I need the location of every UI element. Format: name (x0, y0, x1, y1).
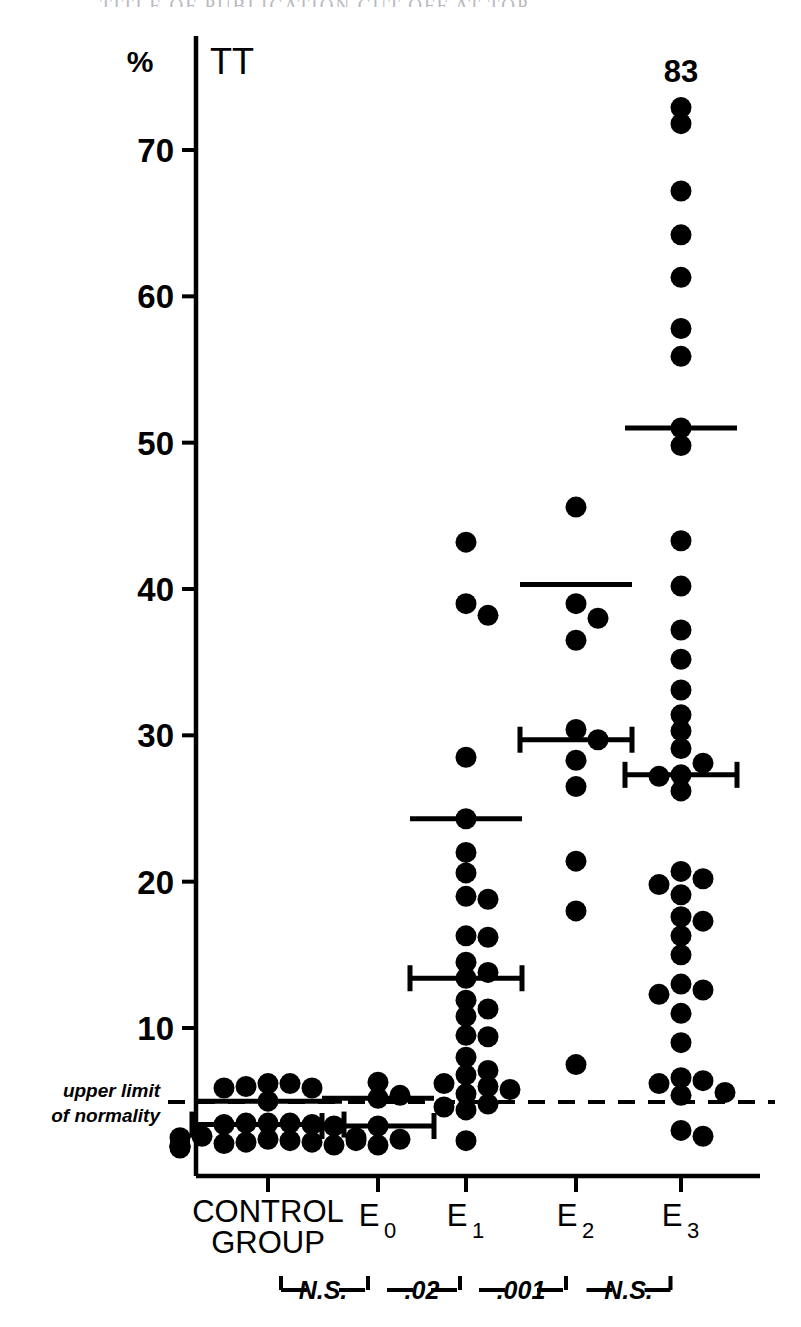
data-point (693, 868, 714, 889)
y-tick-label: 40 (137, 571, 174, 608)
data-point (500, 1079, 521, 1100)
data-point (456, 808, 477, 829)
data-point (671, 224, 692, 245)
data-point (671, 530, 692, 551)
x-label-e0: E (359, 1198, 380, 1233)
data-point (478, 889, 499, 910)
data-point (456, 925, 477, 946)
data-point (390, 1129, 411, 1150)
data-point (456, 532, 477, 553)
data-point (258, 1129, 279, 1150)
data-point (693, 753, 714, 774)
data-point (693, 979, 714, 1000)
data-point (671, 925, 692, 946)
data-point (671, 346, 692, 367)
group-e3 (625, 97, 737, 1147)
data-point (671, 906, 692, 927)
data-point (214, 1114, 235, 1135)
data-point (236, 1076, 257, 1097)
data-point (671, 113, 692, 134)
data-point (671, 1120, 692, 1141)
data-point (456, 1006, 477, 1027)
x-label-e1: E (447, 1198, 468, 1233)
group-e2 (520, 497, 632, 1076)
data-point (456, 1099, 477, 1120)
data-point (192, 1126, 213, 1147)
data-point (302, 1132, 323, 1153)
upper-limit-label-line2: of normality (51, 1105, 161, 1126)
category-labels-group: CONTROLGROUPE0E1E2E3 (192, 1194, 699, 1260)
data-point (671, 576, 692, 597)
data-point (671, 180, 692, 201)
x-label-subscript-e0: 0 (384, 1218, 396, 1243)
data-point (368, 1088, 389, 1109)
percent-symbol-label: % (127, 45, 154, 78)
data-point (434, 1097, 455, 1118)
data-point (478, 998, 499, 1019)
data-point (649, 1073, 670, 1094)
data-point (671, 318, 692, 339)
group-control (170, 1073, 367, 1158)
data-point (478, 1094, 499, 1115)
data-point (280, 1073, 301, 1094)
data-point (478, 1026, 499, 1047)
data-point (671, 649, 692, 670)
x-label-subscript-e1: 1 (472, 1218, 484, 1243)
data-point (566, 776, 587, 797)
data-point (693, 1126, 714, 1147)
data-point (566, 719, 587, 740)
data-point (566, 851, 587, 872)
data-point (566, 497, 587, 518)
data-point (478, 962, 499, 983)
data-point (671, 1032, 692, 1053)
data-point (456, 862, 477, 883)
data-point (456, 1064, 477, 1085)
group-e1 (410, 532, 522, 1152)
data-point (671, 884, 692, 905)
data-point (693, 911, 714, 932)
data-point (346, 1130, 367, 1151)
scatter-plot-svg: 10203040506070 % TT 83 upper limit of no… (0, 0, 801, 1327)
data-point (566, 630, 587, 651)
data-point (456, 886, 477, 907)
data-point (566, 1054, 587, 1075)
y-tick-group: 10203040506070 (137, 132, 196, 1047)
data-point (368, 1116, 389, 1137)
x-sublabel-control: GROUP (211, 1225, 325, 1260)
y-tick-label: 60 (137, 278, 174, 315)
upper-limit-label-line1: upper limit (63, 1080, 161, 1101)
data-point (693, 1070, 714, 1091)
data-point (671, 435, 692, 456)
cut-off-header-text: TITLE OF PUBLICATION CUT OFF AT TOP (100, 0, 790, 7)
data-point (456, 968, 477, 989)
data-point (214, 1133, 235, 1154)
data-point (671, 267, 692, 288)
x-label-e3: E (662, 1198, 683, 1233)
data-point (649, 984, 670, 1005)
series-symbol-label: TT (210, 41, 254, 82)
y-tick-label: 30 (137, 717, 174, 754)
y-tick-label: 20 (137, 864, 174, 901)
data-point (456, 747, 477, 768)
data-point (649, 766, 670, 787)
data-point (478, 605, 499, 626)
data-point (170, 1137, 191, 1158)
y-tick-label: 10 (137, 1010, 174, 1047)
data-point (566, 900, 587, 921)
x-label-subscript-e3: 3 (687, 1218, 699, 1243)
data-point (671, 861, 692, 882)
data-point (715, 1082, 736, 1103)
data-point (456, 842, 477, 863)
data-point (671, 1085, 692, 1106)
data-point (588, 729, 609, 750)
data-point (671, 738, 692, 759)
data-point (671, 1003, 692, 1024)
data-point (649, 874, 670, 895)
data-point (456, 593, 477, 614)
figure-root: TITLE OF PUBLICATION CUT OFF AT TOP 1020… (0, 0, 801, 1327)
data-point (566, 593, 587, 614)
x-label-control: CONTROL (192, 1194, 344, 1229)
data-point (324, 1135, 345, 1156)
data-point (478, 927, 499, 948)
data-point (280, 1130, 301, 1151)
